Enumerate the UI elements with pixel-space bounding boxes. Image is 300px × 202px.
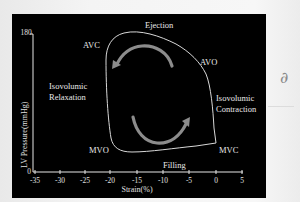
- label-ejection: Ejection: [145, 20, 173, 30]
- label-isovolumic-contraction-2: Contraction: [216, 104, 256, 114]
- chart-graphics: [0, 0, 300, 202]
- x-tick-label: -15: [132, 177, 142, 185]
- x-tick-label: -5: [186, 177, 192, 185]
- label-mvo: MVO: [89, 145, 109, 155]
- y-tick-label-180: 180: [20, 29, 31, 37]
- label-avc: AVC: [83, 40, 100, 50]
- label-mvc: MVC: [219, 145, 238, 155]
- y-tick-label-0: 0: [27, 168, 31, 176]
- x-tick-label: -10: [158, 177, 168, 185]
- x-tick-label: 5: [240, 177, 244, 185]
- bottom-direction-arrow: [133, 117, 186, 143]
- label-avo: AVO: [200, 57, 217, 67]
- x-tick-label: -25: [80, 177, 90, 185]
- margin-divider: [268, 106, 294, 107]
- x-tick-label: -30: [55, 177, 65, 185]
- x-axis-title: Strain(%): [121, 186, 152, 194]
- x-tick-label: -35: [30, 177, 40, 185]
- label-isovolumic-relaxation-1: Isovolumic: [49, 81, 87, 91]
- label-isovolumic-contraction-1: Isovolumic: [216, 93, 254, 103]
- label-filling: Filling: [163, 160, 186, 170]
- page-curl-icon: ∂: [280, 68, 288, 87]
- label-isovolumic-relaxation-2: Relaxation: [49, 92, 86, 102]
- top-direction-arrow: [117, 46, 172, 66]
- y-axis-title: LV Pressure(mmHg): [20, 102, 29, 168]
- x-tick-label: 0: [214, 177, 218, 185]
- x-tick-label: -20: [105, 177, 115, 185]
